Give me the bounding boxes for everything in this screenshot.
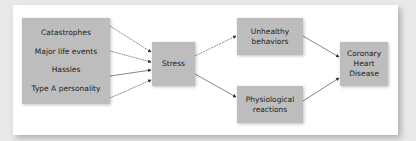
cause-hassles: Hassles — [52, 65, 81, 75]
stress-label: Stress — [162, 59, 185, 69]
upper-line-1: Unhealthy — [251, 27, 289, 37]
physiological-reactions-box: Physiological reactions — [237, 86, 303, 123]
unhealthy-behaviors-box: Unhealthy behaviors — [237, 18, 303, 55]
lower-line-1: Physiological — [246, 95, 295, 105]
cause-major-life-events: Major life events — [35, 47, 97, 57]
cause-catastrophes: Catastrophes — [41, 28, 91, 38]
stressors-box: Catastrophes Major life events Hassles T… — [22, 18, 110, 104]
outcome-line-2: Heart — [354, 59, 375, 69]
stress-box: Stress — [152, 42, 195, 86]
lower-line-2: reactions — [253, 105, 288, 115]
coronary-heart-disease-box: Coronary Heart Disease — [340, 42, 388, 86]
outcome-line-3: Disease — [349, 69, 379, 79]
upper-line-2: behaviors — [252, 37, 289, 47]
cause-type-a-personality: Type A personality — [32, 84, 101, 94]
outcome-line-1: Coronary — [347, 49, 381, 59]
